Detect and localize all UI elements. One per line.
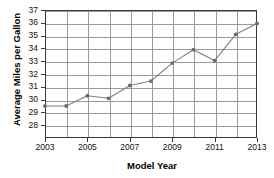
x-axis-tick-label: 2013 <box>240 143 274 152</box>
x-axis-title: Model Year <box>36 160 268 171</box>
data-point-marker <box>192 48 196 52</box>
x-tick-mark <box>45 138 46 142</box>
x-axis-tick-label: 2005 <box>70 143 104 152</box>
x-tick-mark <box>215 138 216 142</box>
data-point-marker <box>43 104 47 108</box>
data-point-marker <box>149 79 153 83</box>
data-point-marker <box>255 22 259 26</box>
data-point-marker <box>213 59 217 63</box>
data-series-line <box>45 10 257 138</box>
data-point-marker <box>128 84 132 88</box>
x-tick-mark <box>87 138 88 142</box>
chart-figure: Average Miles per Gallon Model Year 2829… <box>0 0 274 178</box>
x-axis-tick-label: 2009 <box>155 143 189 152</box>
data-point-marker <box>86 94 90 98</box>
x-tick-mark <box>257 138 258 142</box>
x-axis-tick-label: 2007 <box>113 143 147 152</box>
x-axis-tick-label: 2011 <box>198 143 232 152</box>
y-axis-title: Average Miles per Gallon <box>11 10 22 130</box>
x-axis-tick-label: 2003 <box>28 143 62 152</box>
data-point-marker <box>170 61 174 65</box>
data-point-marker <box>234 32 238 36</box>
data-point-marker <box>107 96 111 100</box>
data-point-marker <box>64 104 68 108</box>
x-tick-mark <box>172 138 173 142</box>
series-polyline <box>45 23 257 106</box>
x-tick-mark <box>130 138 131 142</box>
